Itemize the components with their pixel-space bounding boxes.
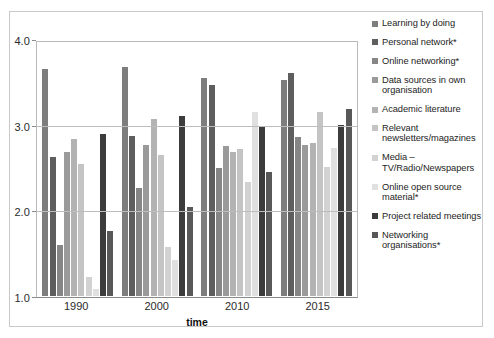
bar-series-container: [38, 43, 356, 296]
bar-group-2015: [277, 43, 357, 296]
legend-item-label: Academic literature: [382, 104, 461, 114]
legend-swatch-icon: [372, 107, 378, 113]
legend-item[interactable]: Networking organisations*: [372, 230, 484, 251]
legend-item-label: Networking organisations*: [382, 230, 484, 251]
y-axis-tick-mark: [32, 297, 36, 298]
bar[interactable]: [230, 152, 236, 297]
bar[interactable]: [331, 148, 337, 296]
legend-swatch-icon: [372, 125, 378, 131]
bar[interactable]: [158, 155, 164, 296]
bar-group-2000: [118, 43, 198, 296]
bar[interactable]: [129, 136, 135, 296]
gridline: [37, 126, 357, 127]
legend-swatch-icon: [372, 155, 378, 161]
bar[interactable]: [310, 143, 316, 296]
legend-item[interactable]: Academic literature: [372, 104, 484, 114]
x-axis-tick-label: 2015: [278, 300, 359, 312]
legend-swatch-icon: [372, 77, 378, 83]
bar-group-1990: [38, 43, 118, 296]
bar[interactable]: [252, 112, 258, 296]
legend-item-label: Online networking*: [382, 56, 459, 66]
y-axis-tick-label: 2.0: [14, 206, 30, 218]
y-axis-tick-label: 1.0: [14, 292, 30, 304]
bar[interactable]: [237, 149, 243, 296]
legend-swatch-icon: [372, 58, 378, 64]
legend-item[interactable]: Online open source material*: [372, 182, 484, 203]
bar[interactable]: [209, 85, 215, 296]
bar[interactable]: [179, 116, 185, 296]
legend-swatch-icon: [372, 213, 378, 219]
bar[interactable]: [317, 112, 323, 296]
bar[interactable]: [64, 152, 70, 297]
legend-swatch-icon: [372, 184, 378, 190]
legend-swatch-icon: [372, 21, 378, 27]
y-axis-tick-mark: [32, 126, 36, 127]
legend-item-label: Project related meetings: [382, 211, 481, 221]
bar[interactable]: [266, 172, 272, 296]
bar[interactable]: [86, 277, 92, 296]
legend-item-label: Media – TV/Radio/Newspapers: [382, 152, 484, 173]
bar[interactable]: [324, 167, 330, 296]
y-axis-tick-mark: [32, 40, 36, 41]
bar[interactable]: [295, 137, 301, 296]
legend-item[interactable]: Data sources in own organisation: [372, 75, 484, 96]
legend-item[interactable]: Learning by doing: [372, 18, 484, 28]
plot-wrapper: 1.02.03.04.0: [36, 41, 358, 298]
legend-item-label: Data sources in own organisation: [382, 75, 484, 96]
bar[interactable]: [187, 207, 193, 296]
x-axis-tick-labels: 1990200020102015: [36, 300, 358, 312]
bar[interactable]: [223, 146, 229, 296]
bar-group-2010: [197, 43, 277, 296]
gridline: [37, 296, 357, 297]
bar[interactable]: [245, 182, 251, 296]
y-axis-tick-label: 4.0: [14, 35, 30, 47]
legend-swatch-icon: [372, 39, 378, 45]
legend-item-label: Personal network*: [382, 37, 457, 47]
legend-item[interactable]: Project related meetings: [372, 211, 484, 221]
bar[interactable]: [216, 168, 222, 296]
x-axis-title: time: [36, 316, 358, 328]
bar[interactable]: [78, 164, 84, 296]
legend-item-label: Online open source material*: [382, 182, 484, 203]
legend-swatch-icon: [372, 232, 378, 238]
chart-figure: 1.02.03.04.0 1990200020102015 time Learn…: [0, 0, 494, 338]
bar[interactable]: [57, 245, 63, 296]
legend-item-label: Learning by doing: [382, 18, 455, 28]
gridline: [37, 41, 357, 42]
x-axis-tick-label: 2000: [117, 300, 198, 312]
legend-item[interactable]: Relevant newsletters/magazines: [372, 123, 484, 144]
plot-area: [36, 41, 358, 298]
bar[interactable]: [50, 157, 56, 296]
bar[interactable]: [288, 73, 294, 296]
bar[interactable]: [302, 145, 308, 296]
bar[interactable]: [71, 139, 77, 296]
y-axis-tick-mark: [32, 211, 36, 212]
bar[interactable]: [151, 119, 157, 296]
legend-item[interactable]: Online networking*: [372, 56, 484, 66]
x-axis-tick-label: 1990: [36, 300, 117, 312]
bar[interactable]: [136, 188, 142, 296]
bar[interactable]: [42, 69, 48, 296]
bar[interactable]: [143, 145, 149, 296]
bar[interactable]: [281, 80, 287, 296]
legend-item[interactable]: Personal network*: [372, 37, 484, 47]
legend-item[interactable]: Media – TV/Radio/Newspapers: [372, 152, 484, 173]
chart-legend: Learning by doingPersonal network*Online…: [372, 18, 484, 251]
gridline: [37, 211, 357, 212]
legend-item-label: Relevant newsletters/magazines: [382, 123, 484, 144]
x-axis-tick-label: 2010: [197, 300, 278, 312]
y-axis-tick-label: 3.0: [14, 121, 30, 133]
bar[interactable]: [122, 67, 128, 296]
bar[interactable]: [93, 289, 99, 296]
bar[interactable]: [172, 260, 178, 297]
bar[interactable]: [107, 231, 113, 296]
bar[interactable]: [165, 247, 171, 296]
bar[interactable]: [100, 134, 106, 296]
bar[interactable]: [346, 109, 352, 296]
bar[interactable]: [201, 78, 207, 296]
